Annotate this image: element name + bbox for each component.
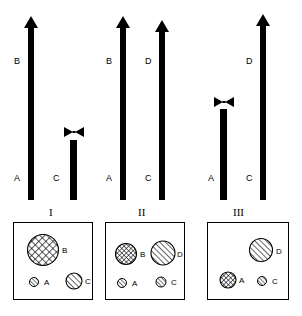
panel-II-label-A: A	[106, 174, 112, 183]
circle-B	[116, 244, 137, 265]
panel-II-circles	[106, 223, 186, 301]
panel-II-circle-label-C: C	[171, 279, 177, 287]
panel-II-label-D: D	[145, 57, 152, 66]
panel-III-label-C: C	[246, 174, 253, 183]
panel-III-circle-label-D: D	[276, 248, 282, 256]
panel-II-circle-label-A: A	[132, 280, 137, 288]
panel-I-label-B: B	[14, 57, 20, 66]
bar-shaft	[70, 140, 77, 200]
bar-shaft	[260, 25, 266, 200]
circle-C	[66, 273, 82, 289]
circle-D	[250, 239, 273, 262]
panel-III-box: D A C	[207, 222, 289, 300]
panel-III-circle-label-C: C	[272, 278, 278, 286]
bowtie-marker-icon	[213, 96, 235, 108]
bar-shaft	[120, 27, 126, 200]
panel-I-circle-label-A: A	[44, 279, 49, 287]
circle-D	[151, 241, 175, 265]
bar-shaft	[159, 31, 165, 200]
panel-II-label-C: C	[145, 174, 152, 183]
panel-III-roman-numeral: III	[233, 207, 244, 218]
bar-shaft	[220, 109, 227, 200]
panel-I-circle-label-C: C	[85, 278, 91, 286]
panel-I-roman-numeral: I	[49, 207, 53, 218]
panel-II-circle-label-B: B	[140, 251, 145, 259]
panel-I-circles	[14, 223, 94, 301]
bar-shaft	[28, 27, 34, 200]
panel-I-circle-label-B: B	[62, 247, 67, 255]
panel-III-circle-label-A: A	[239, 277, 244, 285]
circle-A	[220, 272, 236, 288]
panel-II-box: B D A C	[105, 222, 185, 300]
panel-III-circles	[208, 223, 290, 301]
circle-A	[118, 279, 127, 288]
panel-III-label-A: A	[208, 174, 214, 183]
figure-canvas: B A C B A D C A D C	[0, 0, 302, 316]
panel-II-roman-numeral: II	[138, 207, 145, 218]
circle-C	[156, 277, 166, 287]
panel-II-label-B: B	[106, 57, 112, 66]
bowtie-marker-icon	[63, 126, 85, 138]
panel-II-circle-label-D: D	[177, 251, 183, 259]
panel-I-label-A: A	[14, 174, 20, 183]
circle-C	[258, 277, 267, 286]
panel-III-label-D: D	[246, 57, 253, 66]
circle-A	[30, 278, 39, 287]
circle-B	[28, 235, 59, 266]
panel-I-label-C: C	[53, 174, 60, 183]
panel-I-box: B A C	[13, 222, 93, 300]
